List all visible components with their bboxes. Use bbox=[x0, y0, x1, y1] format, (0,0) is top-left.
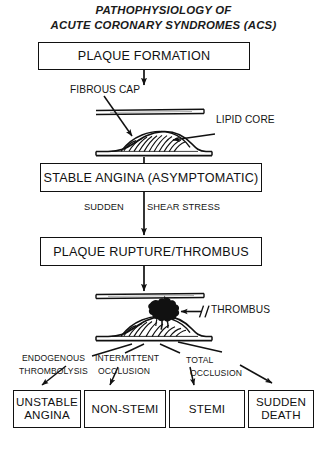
figure-title-line-2: ACUTE CORONARY SYNDROMES (ACS) bbox=[0, 18, 327, 33]
node-sudden-death-label-line2: DEATH bbox=[261, 409, 300, 422]
annotation-thrombus: THROMBUS bbox=[211, 304, 270, 315]
node-plaque-rupture-thrombus-label: PLAQUE RUPTURE/THROMBUS bbox=[53, 245, 249, 259]
thrombus-cross-section-illustration bbox=[96, 293, 212, 340]
figure-title: PATHOPHYSIOLOGY OF ACUTE CORONARY SYNDRO… bbox=[0, 3, 327, 32]
node-stable-angina-label: STABLE ANGINA (ASYMPTOMATIC) bbox=[44, 171, 259, 185]
outcome-fanout-arrows bbox=[42, 342, 272, 385]
edge-label-intermittent-occlusion: OCCLUSION bbox=[98, 366, 150, 376]
node-non-stemi[interactable]: NON-STEMI bbox=[84, 390, 166, 428]
edge-label-total-occlusion: OCCLUSION bbox=[190, 368, 242, 378]
thrombus-pointer-arrow bbox=[181, 306, 209, 318]
plaque-cross-section-illustration bbox=[96, 109, 212, 155]
node-plaque-formation[interactable]: PLAQUE FORMATION bbox=[38, 42, 250, 70]
fibrous-cap-pointer-arrow bbox=[104, 96, 132, 136]
edge-label-total: TOTAL bbox=[186, 355, 213, 365]
lipid-core-pointer-arrow bbox=[173, 134, 215, 140]
node-stable-angina[interactable]: STABLE ANGINA (ASYMPTOMATIC) bbox=[40, 163, 262, 192]
annotation-lipid-core: LIPID CORE bbox=[216, 114, 275, 125]
node-stemi-label: STEMI bbox=[189, 403, 225, 416]
edge-label-intermittent: INTERMITTENT bbox=[95, 353, 159, 363]
node-non-stemi-label: NON-STEMI bbox=[92, 403, 159, 416]
node-stemi[interactable]: STEMI bbox=[169, 390, 245, 428]
node-plaque-formation-label: PLAQUE FORMATION bbox=[78, 49, 210, 63]
edge-label-thrombolysis: THROMBOLYSIS bbox=[19, 366, 88, 376]
edge-label-endogenous: ENDOGENOUS bbox=[22, 353, 85, 363]
node-unstable-angina[interactable]: UNSTABLE ANGINA bbox=[13, 390, 81, 428]
acs-pathophysiology-figure: PATHOPHYSIOLOGY OF ACUTE CORONARY SYNDRO… bbox=[0, 0, 327, 455]
figure-title-line-1: PATHOPHYSIOLOGY OF bbox=[0, 3, 327, 18]
edge-label-sudden: SUDDEN bbox=[84, 202, 124, 212]
edge-label-shear-stress: SHEAR STRESS bbox=[147, 202, 220, 212]
node-unstable-angina-label-line2: ANGINA bbox=[24, 409, 70, 422]
node-plaque-rupture-thrombus[interactable]: PLAQUE RUPTURE/THROMBUS bbox=[40, 237, 262, 266]
node-sudden-death[interactable]: SUDDEN DEATH bbox=[248, 390, 314, 428]
annotation-fibrous-cap: FIBROUS CAP bbox=[70, 84, 140, 95]
